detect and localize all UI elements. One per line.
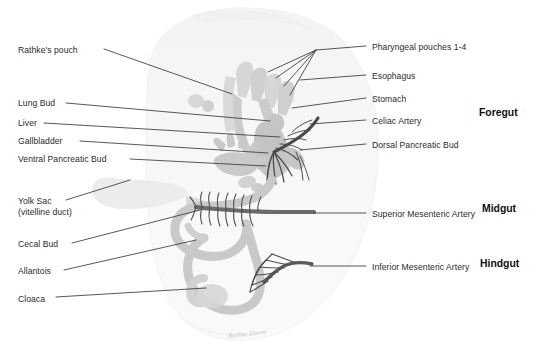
- label-cloaca: Cloaca: [18, 294, 45, 305]
- label-rathkes-pouch: Rathke's pouch: [18, 45, 78, 56]
- label-ventral-pancreatic-bud: Ventral Pancreatic Bud: [18, 154, 107, 165]
- label-inferior-mesenteric-artery: Inferior Mesenteric Artery: [372, 262, 469, 273]
- label-allantois: Allantois: [18, 266, 51, 277]
- label-text: Liver: [18, 118, 37, 129]
- region-label-hindgut: Hindgut: [480, 258, 519, 269]
- leader-pharyngeal-pouch-2: [276, 50, 316, 78]
- leader-celiac-artery: [310, 120, 366, 124]
- label-text-secondary: (vitelline duct): [18, 207, 72, 218]
- label-text: Lung Bud: [18, 98, 55, 109]
- label-text: Yolk Sac: [18, 196, 72, 207]
- label-text: Rathke's pouch: [18, 45, 78, 56]
- label-text: Esophagus: [372, 71, 415, 82]
- label-text: Pharyngeal pouches 1-4: [372, 42, 466, 53]
- figure-canvas: Rathke's pouchLung BudLiverGallbladderVe…: [0, 0, 560, 357]
- label-text: Allantois: [18, 266, 51, 277]
- leader-pharyngeal-pouch-4: [290, 50, 316, 95]
- label-text: Gallbladder: [18, 136, 63, 147]
- label-text: Cloaca: [18, 294, 45, 305]
- leader-cloaca: [56, 288, 206, 297]
- label-yolk-sac: Yolk Sac(vitelline duct): [18, 196, 72, 217]
- leader-ventral-pancreatic-bud: [130, 159, 266, 166]
- leader-esophagus: [300, 75, 366, 80]
- leader-gallbladder: [80, 141, 268, 153]
- label-text: Ventral Pancreatic Bud: [18, 154, 107, 165]
- leader-rathkes-pouch: [104, 49, 232, 94]
- leader-liver: [44, 123, 280, 137]
- label-cecal-bud: Cecal Bud: [18, 239, 58, 250]
- leader-pharyngeal-pouch-1: [268, 50, 316, 72]
- leader-cecal-bud: [72, 210, 200, 243]
- label-text: Dorsal Pancreatic Bud: [372, 140, 459, 151]
- leader-lung-bud: [66, 103, 270, 121]
- label-dorsal-pancreatic-bud: Dorsal Pancreatic Bud: [372, 140, 459, 151]
- label-text: Stomach: [372, 94, 406, 105]
- label-stomach: Stomach: [372, 94, 406, 105]
- label-pharyngeal-pouches: Pharyngeal pouches 1-4: [372, 42, 466, 53]
- label-lung-bud: Lung Bud: [18, 98, 55, 109]
- leader-lines: [0, 0, 560, 357]
- leader-allantois: [64, 240, 196, 270]
- region-label-foregut: Foregut: [479, 107, 518, 118]
- leader-pharyngeal-pouches: [316, 46, 366, 50]
- label-celiac-artery: Celiac Artery: [372, 116, 421, 127]
- label-liver: Liver: [18, 118, 37, 129]
- region-label-midgut: Midgut: [482, 203, 516, 214]
- label-text: Superior Mesenteric Artery: [372, 209, 475, 220]
- leader-yolk-sac: [66, 180, 130, 200]
- leader-dorsal-pancreatic-bud: [300, 144, 366, 150]
- leader-pharyngeal-pouch-3: [284, 50, 316, 86]
- label-gallbladder: Gallbladder: [18, 136, 63, 147]
- label-superior-mesenteric-artery: Superior Mesenteric Artery: [372, 209, 475, 220]
- label-esophagus: Esophagus: [372, 71, 415, 82]
- leader-stomach: [292, 98, 366, 108]
- label-text: Inferior Mesenteric Artery: [372, 262, 469, 273]
- label-text: Celiac Artery: [372, 116, 421, 127]
- label-text: Cecal Bud: [18, 239, 58, 250]
